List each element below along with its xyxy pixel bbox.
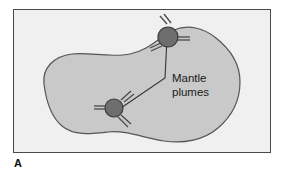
diagram-canvas: Mantle plumes [14, 10, 270, 152]
panel-letter-label: A [14, 158, 22, 169]
diagram-panel: Mantle plumes [13, 9, 271, 153]
figure-root: Mantle plumes A [0, 0, 288, 179]
upper-plume-core [158, 27, 178, 47]
lower-plume-core [105, 99, 123, 117]
plate-outline-shape [44, 27, 240, 142]
mantle-plumes-label-line1: Mantle [172, 72, 207, 84]
mantle-plumes-label-line2: plumes [172, 86, 209, 98]
